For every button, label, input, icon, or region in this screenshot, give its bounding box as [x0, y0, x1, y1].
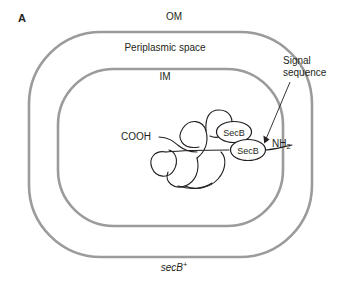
- periplasmic-space-label: Periplasmic space: [0, 42, 330, 54]
- signal-sequence-label: Signal sequence: [283, 55, 326, 78]
- signal-sequence-arrow: [263, 82, 290, 144]
- signal-sequence-label-line1: Signal: [283, 55, 326, 67]
- outer-membrane-label: OM: [0, 11, 348, 23]
- secb-label-upper: SecB: [223, 128, 245, 138]
- c-terminus-label: COOH: [121, 131, 151, 143]
- n-terminus-label: NH2: [272, 138, 291, 150]
- secb-chaperone-group: SecB SecB: [217, 122, 266, 161]
- outer-membrane-shape: [29, 32, 312, 257]
- genotype-superscript: +: [183, 260, 187, 269]
- unfolded-polypeptide-chain: [151, 110, 292, 188]
- n-terminus-subscript: 2: [286, 142, 290, 151]
- n-terminus-text: NH: [272, 138, 286, 149]
- inner-membrane-label: IM: [0, 71, 330, 83]
- secb-label-lower: SecB: [237, 146, 259, 156]
- figure-panel-a: SecB SecB A OM Periplasmic space IM Sign…: [0, 0, 348, 286]
- signal-sequence-label-line2: sequence: [283, 67, 326, 79]
- genotype-label: secB+: [0, 261, 348, 274]
- cooh-leader-line: [159, 137, 197, 152]
- genotype-gene: secB: [161, 262, 183, 273]
